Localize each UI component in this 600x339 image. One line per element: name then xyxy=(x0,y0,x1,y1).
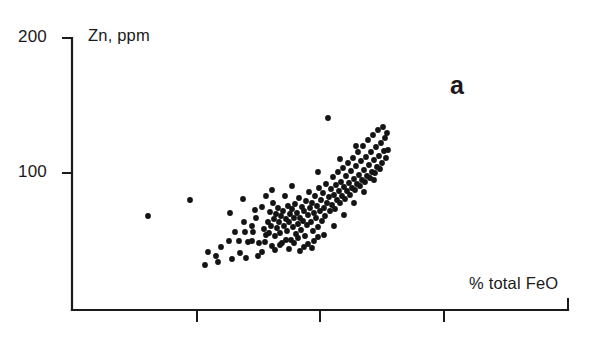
data-point xyxy=(377,166,383,172)
data-point xyxy=(321,232,327,238)
data-point xyxy=(277,230,283,236)
data-point xyxy=(273,211,279,217)
data-point xyxy=(343,173,349,179)
data-point xyxy=(357,183,363,189)
data-point xyxy=(295,221,301,227)
data-point xyxy=(302,233,308,239)
data-point xyxy=(213,253,219,259)
data-point xyxy=(309,200,315,206)
data-point xyxy=(363,154,369,160)
data-point xyxy=(306,189,312,195)
data-point xyxy=(347,192,353,198)
data-point xyxy=(303,198,309,204)
data-point xyxy=(311,210,317,216)
data-point xyxy=(361,167,367,173)
data-point xyxy=(202,262,208,268)
data-point xyxy=(276,219,282,225)
data-point xyxy=(295,235,301,241)
data-point xyxy=(263,193,269,199)
scatter-plot-figure: 200 100 Zn, ppm % total FeO a xyxy=(0,0,600,339)
data-point xyxy=(290,224,296,230)
data-point xyxy=(286,219,292,225)
data-point xyxy=(373,144,379,150)
data-point xyxy=(308,219,314,225)
data-point xyxy=(332,206,338,212)
data-point xyxy=(291,215,297,221)
data-point xyxy=(372,170,378,176)
data-point xyxy=(240,196,246,202)
data-point xyxy=(351,176,357,182)
data-point xyxy=(256,240,262,246)
data-point xyxy=(370,132,376,138)
data-point xyxy=(205,249,211,255)
data-point xyxy=(379,160,385,166)
data-point xyxy=(218,244,224,250)
data-point xyxy=(328,186,334,192)
data-point xyxy=(291,240,297,246)
data-point xyxy=(263,232,269,238)
data-point xyxy=(331,192,337,198)
data-point xyxy=(337,156,343,162)
data-point xyxy=(262,239,268,245)
data-points-group xyxy=(145,115,391,268)
data-point xyxy=(336,188,342,194)
y-axis-tick-label-100: 100 xyxy=(18,162,47,182)
data-point xyxy=(187,197,193,203)
data-point xyxy=(283,237,289,243)
data-point xyxy=(252,207,258,213)
data-point xyxy=(145,213,151,219)
data-point xyxy=(277,242,283,248)
data-point xyxy=(294,210,300,216)
data-point xyxy=(356,172,362,178)
data-point xyxy=(315,224,321,230)
data-point xyxy=(312,193,318,199)
data-point xyxy=(250,229,256,235)
y-axis-tick-label-200: 200 xyxy=(18,27,47,47)
data-point xyxy=(315,169,321,175)
data-point xyxy=(326,194,332,200)
data-point xyxy=(323,181,329,187)
data-point xyxy=(237,250,243,256)
data-point xyxy=(342,196,348,202)
data-point xyxy=(261,226,267,232)
data-point xyxy=(314,203,320,209)
data-point xyxy=(368,149,374,155)
data-point xyxy=(330,174,336,180)
data-point xyxy=(371,177,377,183)
data-point xyxy=(270,200,276,206)
data-point xyxy=(289,206,295,212)
data-point xyxy=(255,253,261,259)
data-point xyxy=(253,215,259,221)
x-axis-title: % total FeO xyxy=(469,274,558,293)
data-point xyxy=(301,244,307,250)
data-point xyxy=(358,158,364,164)
data-point xyxy=(268,223,274,229)
data-point xyxy=(296,195,302,201)
data-point xyxy=(327,208,333,214)
data-point xyxy=(366,162,372,168)
data-point xyxy=(318,197,324,203)
data-point xyxy=(319,218,325,224)
data-point xyxy=(361,189,367,195)
data-point xyxy=(226,238,232,244)
data-point xyxy=(380,124,386,130)
data-point xyxy=(249,238,255,244)
data-point xyxy=(271,216,277,222)
data-point xyxy=(348,168,354,174)
data-point xyxy=(313,215,319,221)
data-point xyxy=(341,212,347,218)
data-point xyxy=(272,247,278,253)
data-point xyxy=(267,209,273,215)
data-point xyxy=(281,223,287,229)
data-point xyxy=(286,246,292,252)
data-point xyxy=(352,187,358,193)
data-point xyxy=(289,183,295,189)
panel-label: a xyxy=(450,71,464,100)
data-point xyxy=(324,200,330,206)
data-point xyxy=(269,187,275,193)
data-point xyxy=(311,238,317,244)
data-point xyxy=(292,201,298,207)
data-point xyxy=(383,155,389,161)
data-point xyxy=(321,205,327,211)
data-point xyxy=(382,135,388,141)
